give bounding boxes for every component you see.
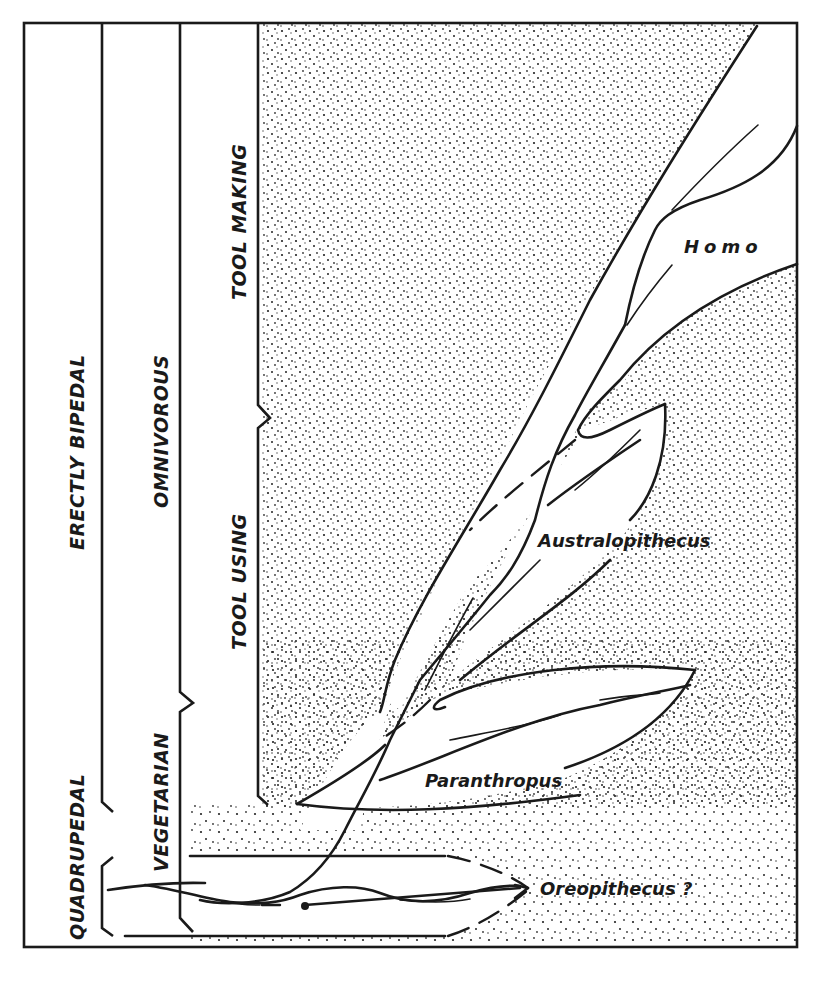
label-tool-making: TOOL MAKING [228, 144, 250, 300]
label-oreopithecus: Oreopithecus ? [540, 878, 692, 899]
label-erectly-bipedal: ERECTLY BIPEDAL [66, 354, 88, 550]
oreopithecus-node [301, 902, 309, 910]
label-homo: Homo [684, 236, 763, 257]
label-paranthropus: Paranthropus [425, 770, 562, 791]
label-vegetarian: VEGETARIAN [150, 732, 172, 872]
label-quadrupedal: QUADRUPEDAL [66, 774, 88, 940]
phylogeny-diagram: QUADRUPEDAL ERECTLY BIPEDAL VEGETARIAN O… [0, 0, 824, 989]
label-australopithecus: Australopithecus [536, 530, 711, 551]
label-omnivorous: OMNIVOROUS [150, 355, 172, 508]
label-tool-using: TOOL USING [228, 513, 250, 650]
